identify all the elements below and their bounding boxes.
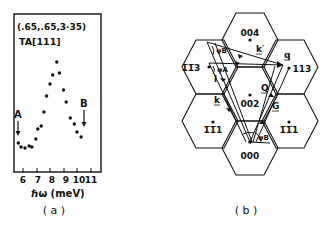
label-phi-A: φA: [217, 66, 228, 74]
panel-b-caption: ( b ): [235, 204, 258, 217]
tick-11: 11: [85, 175, 98, 185]
label-psi-B: ψB: [258, 134, 269, 142]
annotation-wavevector: (.65,.65,3·35): [17, 22, 86, 32]
arrow-down-icon: [16, 131, 21, 136]
data-point: [17, 141, 20, 144]
data-point: [58, 71, 61, 74]
data-point: [42, 110, 45, 113]
panel-a-caption: ( a ): [43, 204, 65, 217]
data-point: [19, 145, 22, 148]
label-phi-B: φB: [216, 47, 227, 55]
arrowhead-icon: [238, 54, 243, 59]
data-point: [79, 135, 82, 138]
data-points: [17, 60, 83, 149]
figure-canvas: 6 7 8 9 10 11 ℏω (meV) (.65,.65,3·35) TA…: [0, 0, 327, 229]
label-m1m13: 1̅1̅3: [182, 63, 201, 73]
panel-a-plot: 6 7 8 9 10 11 ℏω (meV) (.65,.65,3·35) TA…: [14, 14, 101, 199]
data-point: [65, 100, 68, 103]
data-point: [51, 73, 54, 76]
data-point: [48, 82, 51, 85]
label-G: G: [272, 101, 279, 111]
label-004: 004: [241, 28, 260, 38]
tick-10: 10: [73, 175, 86, 185]
data-point: [40, 124, 43, 127]
x-axis-label: ℏω (meV): [31, 188, 84, 199]
x-axis-tick-labels: 6 7 8 9 10 11: [20, 175, 97, 185]
data-point: [73, 122, 76, 125]
data-point: [55, 60, 58, 63]
data-point: [69, 116, 72, 119]
label-k: k: [214, 95, 221, 105]
tick-6: 6: [20, 175, 26, 185]
arrow-A-label: A: [14, 109, 22, 120]
label-m111: 1̅1̅1: [280, 125, 299, 135]
label-q: q: [284, 50, 290, 60]
data-point: [45, 94, 48, 97]
arrowhead-icon: [268, 93, 274, 97]
data-point: [23, 146, 26, 149]
data-point: [75, 130, 78, 133]
hexagon-000: [222, 121, 278, 175]
arrow-A: A: [14, 109, 22, 136]
label-m1m11: 1̅1̅1: [204, 125, 223, 135]
label-l: l: [214, 74, 217, 84]
arrow-down-icon: [82, 122, 87, 127]
data-point: [36, 127, 39, 130]
data-point: [34, 137, 37, 140]
tick-7: 7: [35, 175, 41, 185]
hexagon-m1m11: [182, 94, 238, 148]
label-Q: Q: [261, 83, 269, 93]
arrow-B: B: [80, 98, 88, 127]
label-k-prime: k′: [256, 44, 265, 54]
arrow-B-label: B: [80, 98, 88, 109]
tick-9: 9: [63, 175, 69, 185]
label-000: 000: [241, 151, 260, 161]
data-point: [30, 145, 33, 148]
arrowhead-icon: [220, 78, 226, 82]
tick-8: 8: [49, 175, 55, 185]
label-113: 113: [293, 64, 312, 74]
data-point: [62, 88, 65, 91]
annotation-mode: TA[111]: [19, 36, 61, 47]
label-002: 002: [241, 99, 260, 109]
